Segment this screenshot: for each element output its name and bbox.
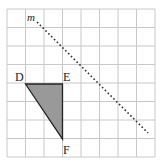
line-m-label: m bbox=[27, 12, 35, 23]
grid-diagram bbox=[0, 0, 160, 164]
grid bbox=[7, 9, 155, 157]
vertex-e-label: E bbox=[63, 71, 70, 83]
vertex-d-label: D bbox=[15, 71, 24, 83]
vertex-f-label: F bbox=[63, 144, 70, 156]
